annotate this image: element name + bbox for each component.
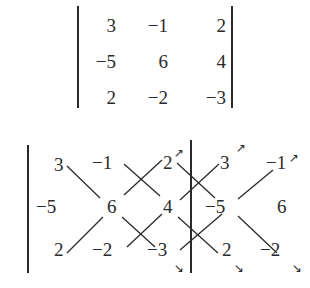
cell: −3 (147, 240, 167, 259)
cell: 6 (107, 197, 117, 216)
cell: −2 (260, 240, 280, 259)
cell: 6 (277, 197, 287, 216)
cell: −1 (92, 153, 112, 172)
cell: 3 (220, 153, 230, 172)
arrow-up-right-icon: ↗ (289, 152, 299, 164)
cell: 3 (54, 155, 64, 174)
cell: −5 (36, 197, 56, 216)
cell: 2 (222, 240, 232, 259)
cell: −2 (92, 240, 112, 259)
arrow-down-right-icon: ↘ (174, 262, 184, 274)
cell: −1 (266, 153, 286, 172)
arrow-up-right-icon: ↗ (236, 142, 246, 154)
arrow-down-right-icon: ↘ (234, 262, 244, 274)
cell: 2 (54, 240, 64, 259)
arrow-down-right-icon: ↘ (292, 262, 302, 274)
cell: −5 (205, 197, 225, 216)
cell: 4 (163, 197, 173, 216)
cell: 2 (163, 153, 173, 172)
arrow-up-right-icon: ↗ (174, 147, 184, 159)
